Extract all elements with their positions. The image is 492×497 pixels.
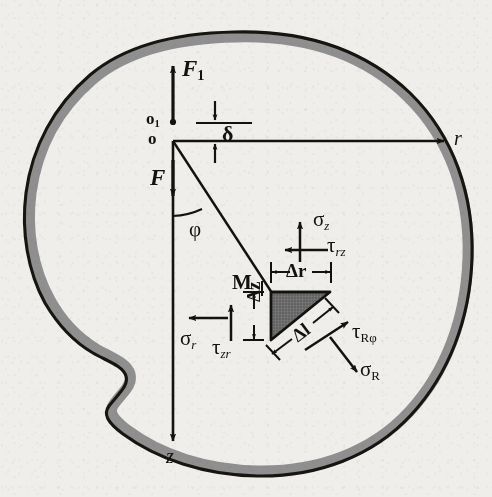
- figure-canvas: F1 o1 o δ r z F φ M σz τrz Δr Δz Δl σr: [0, 0, 492, 497]
- point-o1-dot: [170, 119, 176, 125]
- solid-body-blob: [24, 32, 472, 476]
- diagram-svg: [0, 0, 492, 497]
- axis-r-label: r: [454, 128, 462, 148]
- phi-angle-label: φ: [189, 219, 201, 240]
- origin-o-label: o: [148, 130, 157, 147]
- tau-R-phi-label: τRφ: [352, 321, 377, 344]
- delta-l-arrow-upper: [313, 307, 333, 323]
- force-f1-label: F1: [182, 57, 204, 82]
- tau-rz-label: τrz: [327, 235, 346, 258]
- delta-r-label: Δr: [286, 261, 306, 280]
- delta-label: δ: [222, 123, 233, 145]
- blob-gray-band: [29, 37, 468, 471]
- sigma-r-label: σr: [180, 328, 196, 351]
- sigma-z-label: σz: [313, 209, 329, 232]
- phi-angle-arc: [173, 209, 202, 216]
- force-f1-group: [170, 66, 176, 125]
- origin-o1-label: o1: [146, 110, 160, 129]
- axis-z-label: z: [166, 446, 174, 466]
- delta-z-label: Δz: [244, 282, 263, 302]
- force-f-label: F: [150, 166, 165, 189]
- sigma-R-label: σR: [360, 359, 380, 382]
- delta-l-arrow-lower: [272, 339, 292, 354]
- tau-zr-label: τzr: [212, 337, 231, 360]
